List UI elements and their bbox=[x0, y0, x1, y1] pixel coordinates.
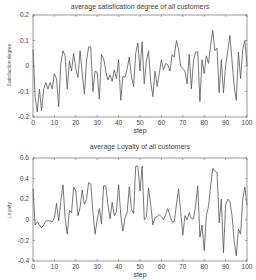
x-tick-label: 20 bbox=[72, 263, 80, 270]
axes-frame bbox=[33, 158, 247, 261]
y-tick-label: 0.1 bbox=[20, 37, 29, 44]
y-tick-label: -0.1 bbox=[18, 88, 30, 95]
data-line bbox=[33, 166, 247, 256]
y-tick-label: 0.2 bbox=[20, 195, 29, 202]
x-tick-label: 40 bbox=[115, 263, 123, 270]
x-tick-label: 60 bbox=[158, 119, 166, 126]
x-tick-label: 10 bbox=[51, 263, 59, 270]
y-tick-label: -0.2 bbox=[18, 237, 30, 244]
y-axis-label: Loyalty bbox=[6, 185, 12, 235]
x-tick-label: 80 bbox=[201, 119, 209, 126]
plot-area: 0102030405060708090100-0.2-0.100.10.2 bbox=[0, 0, 256, 140]
plot-area: 0102030405060708090100-0.4-0.200.20.40.6 bbox=[0, 140, 256, 280]
y-tick-label: 0 bbox=[25, 216, 29, 223]
x-tick-label: 100 bbox=[242, 119, 253, 126]
x-tick-label: 0 bbox=[31, 263, 35, 270]
y-tick-label: 0.6 bbox=[20, 154, 29, 161]
x-axis-label: step bbox=[33, 127, 247, 134]
y-tick-label: 0.4 bbox=[20, 175, 29, 182]
x-tick-label: 0 bbox=[31, 119, 35, 126]
y-tick-label: 0 bbox=[25, 62, 29, 69]
x-tick-label: 50 bbox=[136, 119, 144, 126]
y-tick-label: 0.2 bbox=[20, 11, 29, 18]
y-axis-label: Satisfaction degree bbox=[6, 40, 12, 90]
data-line bbox=[33, 30, 247, 112]
x-tick-label: 80 bbox=[201, 263, 209, 270]
satisfaction-chart: average satisfication degree of all cust… bbox=[0, 0, 256, 140]
x-tick-label: 10 bbox=[51, 119, 59, 126]
x-tick-label: 60 bbox=[158, 263, 166, 270]
loyalty-chart: average Loyalty of all customers 0102030… bbox=[0, 140, 256, 280]
x-tick-label: 30 bbox=[94, 119, 102, 126]
x-tick-label: 50 bbox=[136, 263, 144, 270]
y-tick-label: -0.4 bbox=[18, 257, 30, 264]
x-tick-label: 90 bbox=[222, 119, 230, 126]
x-tick-label: 20 bbox=[72, 119, 80, 126]
x-tick-label: 70 bbox=[179, 119, 187, 126]
x-tick-label: 70 bbox=[179, 263, 187, 270]
x-axis-label: step bbox=[33, 271, 247, 278]
x-tick-label: 100 bbox=[242, 263, 253, 270]
x-tick-label: 40 bbox=[115, 119, 123, 126]
y-tick-label: -0.2 bbox=[18, 113, 30, 120]
x-tick-label: 30 bbox=[94, 263, 102, 270]
x-tick-label: 90 bbox=[222, 263, 230, 270]
